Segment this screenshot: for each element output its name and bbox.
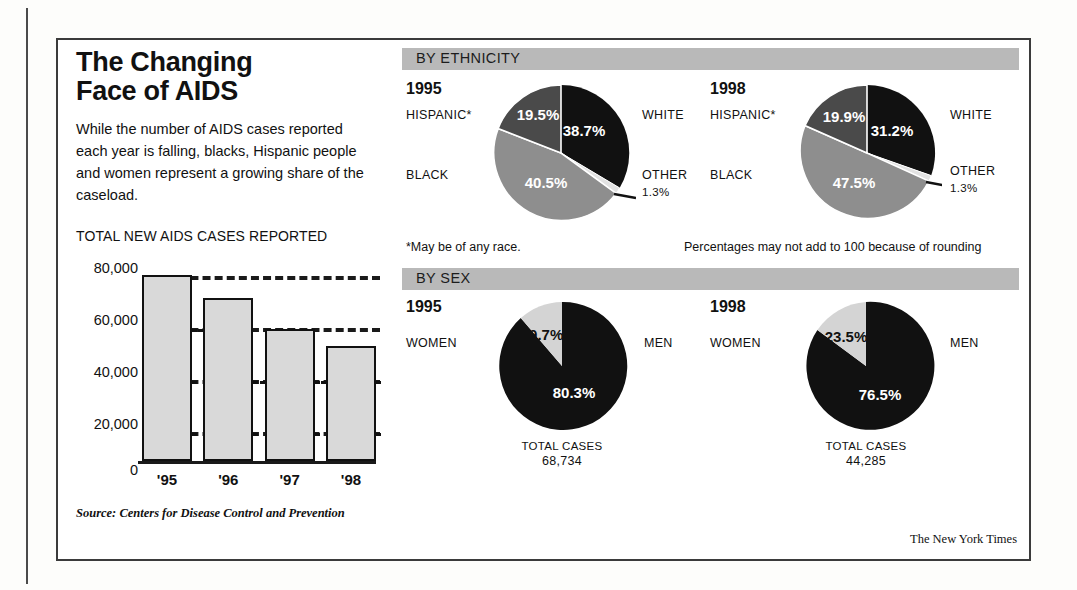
- total-cases-value-1998: 44,285: [796, 454, 936, 468]
- pie-label-other-1998: OTHER: [950, 164, 995, 178]
- bar-96: [203, 298, 253, 461]
- left-column: The Changing Face of AIDS While the numb…: [58, 40, 388, 559]
- pie-year-1995-ethnicity: 1995: [406, 80, 442, 98]
- pie-value-women-1995: 19.7%: [521, 326, 564, 343]
- bar-tick: [313, 381, 320, 384]
- pie-chart-sex-1998: 23.5% 76.5%: [796, 296, 936, 436]
- pie-value-black-1995: 40.5%: [525, 174, 568, 191]
- total-cases-label-1998: TOTAL CASES: [796, 440, 936, 452]
- section-label-ethnicity: BY ETHNICITY: [416, 50, 520, 66]
- pie-label-black-1998: BLACK: [710, 168, 753, 182]
- x-axis-baseline: [138, 461, 376, 464]
- pie-chart-ethnicity-1998: 31.2% 47.5% 19.9%: [792, 78, 942, 228]
- footnote-rounding: Percentages may not add to 100 because o…: [684, 240, 981, 254]
- pie-value-black-1998: 47.5%: [833, 174, 876, 191]
- pie-label-hispanic-1998: HISPANIC*: [710, 108, 776, 122]
- leader-line-other: [614, 194, 636, 198]
- pie-year-1998-sex: 1998: [710, 298, 746, 316]
- x-axis-labels: '95 '96 '97 '98: [142, 471, 376, 488]
- bar-tick: [260, 381, 267, 384]
- x-tick-97: '97: [265, 471, 315, 488]
- x-tick-95: '95: [142, 471, 192, 488]
- pie-label-women-1998: WOMEN: [710, 336, 761, 350]
- source-note: Source: Centers for Disease Control and …: [76, 506, 345, 521]
- bar-tick: [198, 329, 205, 332]
- x-tick-96: '96: [203, 471, 253, 488]
- pie-value-white-1995: 38.7%: [563, 122, 606, 139]
- bar-tick: [374, 381, 381, 384]
- bar-plot-area: [142, 252, 376, 464]
- footnote-hispanic: *May be of any race.: [406, 240, 521, 254]
- pie-label-black-1995: BLACK: [406, 168, 449, 182]
- pie-value-hispanic-1998: 19.9%: [823, 108, 866, 125]
- bar-tick: [251, 381, 258, 384]
- pie-label-men-1998: MEN: [950, 336, 979, 350]
- pie-label-women-1995: WOMEN: [406, 336, 457, 350]
- pie-value-men-1998: 76.5%: [859, 386, 902, 403]
- bar-tick: [190, 329, 197, 332]
- pie-value-women-1998: 23.5%: [825, 328, 868, 345]
- y-axis-labels: 80,000 60,000 40,000 20,000 0: [76, 252, 138, 492]
- bar-95: [142, 275, 192, 461]
- pie-year-1998-ethnicity: 1998: [710, 80, 746, 98]
- pie-value-hispanic-1995: 19.5%: [517, 106, 560, 123]
- pie-value-other-1998: 1.3%: [950, 182, 977, 194]
- y-tick-0: 0: [130, 462, 138, 478]
- pie-label-men-1995: MEN: [644, 336, 673, 350]
- bar-chart-title: TOTAL NEW AIDS CASES REPORTED: [76, 228, 327, 244]
- publisher-credit: The New York Times: [910, 532, 1017, 547]
- pie-label-hispanic-1995: HISPANIC*: [406, 108, 472, 122]
- pie-slice-men: [499, 302, 627, 430]
- bar-tick: [374, 433, 381, 436]
- left-margin-rule: [26, 8, 28, 584]
- bar-tick: [321, 381, 328, 384]
- y-tick-20000: 20,000: [94, 416, 138, 432]
- y-tick-40000: 40,000: [94, 364, 138, 380]
- pie-label-white-1995: WHITE: [642, 108, 684, 122]
- pie-label-white-1998: WHITE: [950, 108, 992, 122]
- bar-tick: [251, 433, 258, 436]
- pie-label-other-1995: OTHER: [642, 168, 687, 182]
- total-cases-label-1995: TOTAL CASES: [492, 440, 632, 452]
- y-tick-80000: 80,000: [94, 260, 138, 276]
- bar-chart: 80,000 60,000 40,000 20,000 0: [76, 252, 376, 492]
- right-column: BY ETHNICITY 1995 HISPANIC* BLACK WHITE …: [394, 40, 1029, 559]
- pie-value-men-1995: 80.3%: [553, 384, 596, 401]
- leader-line-other: [926, 182, 942, 186]
- bar-tick: [190, 381, 197, 384]
- total-cases-value-1995: 68,734: [492, 454, 632, 468]
- pie-value-other-1995: 1.3%: [642, 186, 669, 198]
- y-tick-60000: 60,000: [94, 312, 138, 328]
- deck-text: While the number of AIDS cases reported …: [76, 118, 376, 206]
- section-label-sex: BY SEX: [416, 270, 471, 286]
- bar-tick: [313, 433, 320, 436]
- bar-series: [142, 252, 376, 461]
- pie-year-1995-sex: 1995: [406, 298, 442, 316]
- pie-chart-ethnicity-1995: 38.7% 40.5% 19.5%: [486, 78, 636, 228]
- bar-tick: [190, 433, 197, 436]
- x-tick-98: '98: [326, 471, 376, 488]
- section-band-ethnicity: BY ETHNICITY: [402, 48, 1019, 70]
- pie-value-white-1998: 31.2%: [871, 122, 914, 139]
- infographic-panel: The Changing Face of AIDS While the numb…: [56, 38, 1031, 561]
- pie-chart-sex-1995: 19.7% 80.3%: [492, 296, 632, 436]
- section-band-sex: BY SEX: [402, 268, 1019, 290]
- bar-98: [326, 346, 376, 461]
- bar-97: [265, 329, 315, 461]
- page-title: The Changing Face of AIDS: [76, 48, 376, 105]
